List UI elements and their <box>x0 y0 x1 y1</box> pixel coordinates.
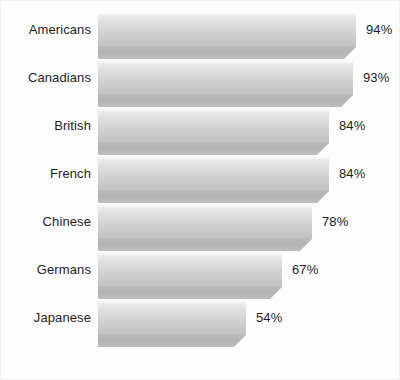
bar-shape <box>98 253 282 299</box>
bar-front-face <box>98 47 356 59</box>
bar-category-label: Americans <box>1 13 91 47</box>
bar-category-label: Chinese <box>1 205 91 239</box>
bar-value-label: 94% <box>366 13 392 47</box>
bar-shape <box>98 301 246 347</box>
bar-value-label: 67% <box>292 253 318 287</box>
bar-shape <box>98 13 356 59</box>
bar-category-label: Japanese <box>1 301 91 335</box>
bar-row: Americans94% <box>1 13 400 61</box>
bar-front-face <box>98 191 329 203</box>
bar-row: Japanese54% <box>1 301 400 349</box>
bar-top-face <box>98 61 353 95</box>
bar-category-label: British <box>1 109 91 143</box>
bar-value-label: 78% <box>322 205 348 239</box>
bar-top-face <box>98 205 312 239</box>
bar-category-label: French <box>1 157 91 191</box>
bar-value-label: 93% <box>363 61 389 95</box>
bar-category-label: Germans <box>1 253 91 287</box>
bar-front-face <box>98 239 312 251</box>
bar-value-label: 84% <box>339 109 365 143</box>
bar-shape <box>98 109 329 155</box>
bar-front-face <box>98 287 282 299</box>
bar-top-face <box>98 253 282 287</box>
bar-row: French84% <box>1 157 400 205</box>
bar-row: Chinese78% <box>1 205 400 253</box>
bar-row: Germans67% <box>1 253 400 301</box>
bar-row: British84% <box>1 109 400 157</box>
bar-value-label: 84% <box>339 157 365 191</box>
bar-top-face <box>98 13 356 47</box>
bar-top-face <box>98 157 329 191</box>
bar-front-face <box>98 95 353 107</box>
bar-shape <box>98 61 353 107</box>
bar-row: Canadians93% <box>1 61 400 109</box>
bar-shape <box>98 205 312 251</box>
bar-value-label: 54% <box>256 301 282 335</box>
bar-top-face <box>98 301 246 335</box>
bar-front-face <box>98 335 246 347</box>
bar-front-face <box>98 143 329 155</box>
bar-chart: Americans94%Canadians93%British84%French… <box>0 0 400 380</box>
bar-category-label: Canadians <box>1 61 91 95</box>
bar-shape <box>98 157 329 203</box>
bar-top-face <box>98 109 329 143</box>
